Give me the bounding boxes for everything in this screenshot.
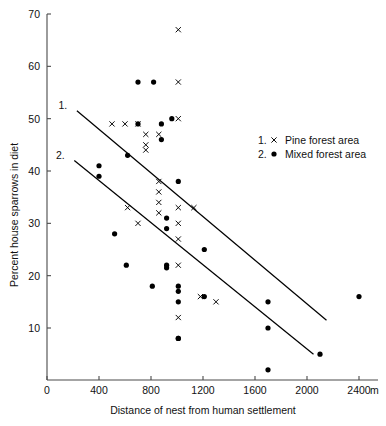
y-tick-label: 70 — [28, 8, 40, 20]
legend-index-1: 1. — [258, 134, 267, 146]
data-point-mixed-forest — [176, 336, 181, 341]
data-point-mixed-forest — [176, 179, 181, 184]
x-tick-label: 800 — [142, 384, 160, 396]
data-point-mixed-forest — [135, 121, 140, 126]
legend-marker-x-icon — [271, 137, 276, 142]
data-point-pine-forest — [135, 221, 140, 226]
data-point-mixed-forest — [164, 216, 169, 221]
y-tick-label: 30 — [28, 217, 40, 229]
x-tick-label: 400 — [90, 384, 108, 396]
legend-marker-dot-icon — [271, 151, 276, 156]
data-point-mixed-forest — [265, 325, 270, 330]
regression-line-label-2: 2. — [56, 149, 65, 161]
data-point-mixed-forest — [265, 367, 270, 372]
legend-label-1: Pine forest area — [285, 134, 359, 146]
data-point-mixed-forest — [112, 231, 117, 236]
data-point-pine-forest — [122, 121, 127, 126]
scatter-plot-figure: 10203040506070 04008001200160020002400m … — [0, 0, 386, 426]
x-tick-label: 1200 — [191, 384, 215, 396]
data-point-pine-forest — [213, 299, 218, 304]
data-point-mixed-forest — [135, 79, 140, 84]
legend-label-2: Mixed forest area — [285, 148, 366, 160]
data-point-mixed-forest — [96, 163, 101, 168]
data-point-pine-forest — [143, 142, 148, 147]
data-point-pine-forest — [176, 27, 181, 32]
data-point-pine-forest — [176, 263, 181, 268]
data-point-mixed-forest — [356, 294, 361, 299]
data-point-mixed-forest — [176, 284, 181, 289]
data-point-mixed-forest — [159, 137, 164, 142]
data-points-layer — [96, 27, 361, 372]
y-tick-label: 20 — [28, 270, 40, 282]
data-point-pine-forest — [109, 121, 114, 126]
y-tick-label: 40 — [28, 165, 40, 177]
chart-canvas: 10203040506070 04008001200160020002400m … — [0, 0, 386, 426]
regression-line-label-1: 1. — [59, 99, 68, 111]
data-point-pine-forest — [176, 205, 181, 210]
x-axis-title: Distance of nest from human settlement — [110, 404, 296, 416]
y-tick-label: 10 — [28, 322, 40, 334]
data-point-mixed-forest — [265, 299, 270, 304]
data-point-pine-forest — [156, 200, 161, 205]
x-tick-label: 1600 — [243, 384, 267, 396]
x-axis-unit-label: m — [370, 384, 379, 396]
y-tick-label: 50 — [28, 113, 40, 125]
data-point-mixed-forest — [150, 284, 155, 289]
data-point-pine-forest — [176, 315, 181, 320]
legend: 1.Pine forest area2.Mixed forest area — [258, 134, 366, 160]
regression-line-labels: 1.2. — [56, 99, 67, 161]
data-point-mixed-forest — [151, 79, 156, 84]
data-point-mixed-forest — [176, 289, 181, 294]
data-point-pine-forest — [143, 132, 148, 137]
data-point-mixed-forest — [317, 352, 322, 357]
x-tick-label: 2400 — [347, 384, 371, 396]
data-point-mixed-forest — [164, 265, 169, 270]
x-tick-label: 0 — [44, 384, 50, 396]
data-point-pine-forest — [156, 189, 161, 194]
data-point-mixed-forest — [202, 247, 207, 252]
data-point-pine-forest — [143, 147, 148, 152]
data-point-pine-forest — [176, 221, 181, 226]
y-axis: 10203040506070 — [28, 8, 51, 380]
data-point-mixed-forest — [124, 263, 129, 268]
data-point-mixed-forest — [176, 299, 181, 304]
data-point-mixed-forest — [164, 226, 169, 231]
x-axis: 04008001200160020002400m — [44, 376, 379, 396]
data-point-pine-forest — [176, 116, 181, 121]
data-point-mixed-forest — [96, 174, 101, 179]
x-tick-label: 2000 — [295, 384, 319, 396]
y-axis-title: Percent house sparrows in diet — [8, 143, 20, 287]
y-tick-label: 60 — [28, 60, 40, 72]
data-point-mixed-forest — [202, 294, 207, 299]
legend-index-2: 2. — [258, 148, 267, 160]
data-point-pine-forest — [176, 236, 181, 241]
data-point-mixed-forest — [169, 116, 174, 121]
data-point-mixed-forest — [159, 121, 164, 126]
regression-line-2 — [74, 161, 313, 355]
data-point-pine-forest — [156, 132, 161, 137]
data-point-pine-forest — [156, 210, 161, 215]
data-point-pine-forest — [176, 79, 181, 84]
